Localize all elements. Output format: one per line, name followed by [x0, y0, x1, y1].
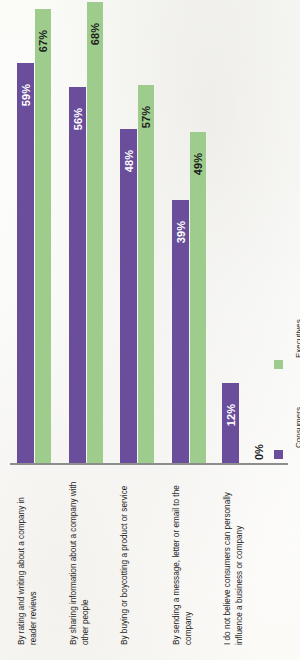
bar-consumers-4: 39%: [172, 200, 189, 465]
bar-value-label: 49%: [192, 153, 204, 176]
bar-consumers-5: 12%: [222, 383, 239, 465]
bar-executives-4: 49%: [190, 132, 206, 465]
bar-value-label: 57%: [140, 106, 152, 129]
category-label-5: I do not believe consumers can personall…: [222, 475, 246, 645]
bar-executives-3: 57%: [138, 85, 154, 465]
bar-value-label-zero: 0%: [253, 444, 265, 460]
bar-consumers-1: 59%: [17, 63, 34, 465]
bar-value-label: 12%: [225, 404, 237, 427]
bar-value-label: 56%: [72, 108, 84, 131]
category-label-1: By rating and writing about a company in…: [16, 475, 40, 645]
bar-value-label: 48%: [123, 150, 135, 173]
x-axis-line: [10, 463, 288, 465]
bar-value-label: 67%: [37, 30, 49, 53]
chart-page: 59% 67% 56% 68% 48% 57% 39% 49% 12% 0%: [0, 0, 300, 660]
plot-area: 59% 67% 56% 68% 48% 57% 39% 49% 12% 0%: [0, 0, 300, 465]
legend-swatch-consumers: [274, 450, 283, 459]
category-label-4: By sending a message, letter or email to…: [171, 475, 195, 645]
bar-value-label: 39%: [175, 221, 187, 244]
legend-label-executives: Executives: [294, 319, 300, 358]
category-label-2: By sharing information about a company w…: [68, 475, 92, 645]
bar-consumers-2: 56%: [69, 87, 86, 465]
chart-legend: Executives Consumers: [268, 330, 300, 460]
category-label-3: By buying or boycotting a product or ser…: [119, 475, 131, 645]
bar-value-label: 59%: [20, 84, 32, 107]
legend-swatch-executives: [274, 360, 283, 369]
bar-consumers-3: 48%: [120, 129, 137, 465]
bar-executives-2: 68%: [87, 2, 103, 465]
bar-value-label: 68%: [89, 23, 101, 46]
legend-label-consumers: Consumers: [294, 407, 300, 448]
bar-executives-1: 67%: [35, 9, 51, 465]
